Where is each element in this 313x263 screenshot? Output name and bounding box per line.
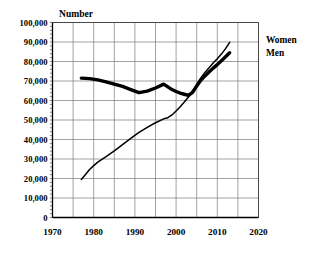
y-axis-tick-label: 20,000	[24, 174, 48, 184]
x-axis-tick-label: 2010	[208, 227, 227, 237]
x-axis-tick-label: 2020	[249, 227, 268, 237]
y-axis-tick-label: 50,000	[24, 115, 48, 125]
y-axis-tick-label: 100,000	[20, 18, 48, 28]
y-axis-tick-label: 60,000	[24, 96, 48, 106]
x-axis-tick-label: 1980	[85, 227, 104, 237]
y-axis-tick-label: 80,000	[24, 57, 48, 67]
y-axis-tick-label: 40,000	[24, 135, 48, 145]
y-axis-tick-label: 90,000	[24, 37, 48, 47]
line-chart: 010,00020,00030,00040,00050,00060,00070,…	[0, 0, 313, 263]
chart-container: 010,00020,00030,00040,00050,00060,00070,…	[0, 0, 313, 263]
y-axis-tick-label: 70,000	[24, 76, 48, 86]
x-axis-tick-label: 1990	[126, 227, 145, 237]
y-axis-tick-label: 30,000	[24, 154, 48, 164]
y-axis-tick-label: 10,000	[24, 193, 48, 203]
x-axis-tick-label: 1970	[43, 227, 62, 237]
x-axis-tick-label: 2000	[167, 227, 186, 237]
legend-label-men: Men	[266, 48, 285, 58]
legend-label-women: Women	[266, 35, 298, 45]
y-axis-tick-label: 0	[43, 213, 47, 223]
chart-title: Number	[59, 8, 94, 19]
